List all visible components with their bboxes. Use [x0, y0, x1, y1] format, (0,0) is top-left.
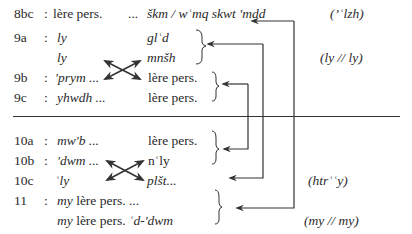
chiasm-arrow-10-a: [107, 161, 143, 180]
connector-8bc-11: [237, 21, 294, 208]
row-9c-right: lère pers.: [148, 91, 197, 105]
brace-10ab: [212, 131, 219, 164]
verse-label-9b: 9b: [14, 71, 28, 85]
row-9a-left: ly: [57, 31, 67, 45]
row-10c-right: plšt...: [147, 174, 177, 188]
verse-label-9a: 9a: [14, 31, 27, 45]
verse-label-10c: 10c: [14, 174, 34, 188]
row-9a-right: glʿd: [147, 31, 169, 45]
row-11b-tail: ʿd-'dwm: [129, 213, 173, 228]
colon-10a: :: [44, 134, 48, 148]
chiasm-arrow-10-b: [107, 161, 143, 180]
colon-9b: :: [44, 71, 48, 85]
colon-9c: :: [44, 91, 48, 105]
annotation-8bc: (ʼʿlzh): [330, 7, 364, 21]
verse-label-10b: 10b: [14, 154, 34, 168]
row-8bc-left: lère pers.: [53, 7, 102, 21]
verse-label-8bc: 8bc: [14, 7, 34, 21]
verse-label-10a: 10a: [14, 134, 34, 148]
row-10a-right: lère pers.: [148, 134, 197, 148]
row-9a2-right: mnšh: [147, 51, 176, 65]
connector-9a-10c: [230, 44, 263, 178]
row-9a2-left: ly: [57, 51, 67, 65]
row-9b-left: 'prym ...: [55, 71, 99, 85]
colon-11: :: [44, 194, 48, 208]
row-10b-right: nʿly: [148, 154, 170, 168]
chiasm-arrow-9-a: [105, 61, 140, 79]
colon-9a: :: [44, 31, 48, 45]
row-10a-left: mw'b ...: [57, 134, 99, 148]
row-11-rest: lère pers. ...: [73, 193, 139, 208]
colon-8bc: :: [44, 7, 48, 21]
connector-9bc-10ab: [224, 84, 248, 149]
annotation-9a: (ly // ly): [320, 51, 363, 65]
row-9c-left: yhwdh ...: [57, 91, 106, 105]
row-10b-left: 'dwm ...: [57, 154, 99, 168]
colon-10b: :: [44, 154, 48, 168]
row-10c-left: ʿly: [55, 174, 69, 188]
verse-label-9c: 9c: [14, 91, 27, 105]
row-11b-left: my lère pers. ʿd-'dwm: [57, 214, 173, 228]
row-11b-my: my: [57, 213, 73, 228]
row-9b-right: lère pers.: [148, 71, 197, 85]
brace-11: [215, 190, 222, 224]
row-11-my: my: [57, 193, 73, 208]
chiasm-arrow-9-b: [105, 61, 140, 79]
verse-label-11: 11: [14, 194, 27, 208]
annotation-11: (my // my): [304, 214, 359, 228]
row-11-left: my lère pers. ...: [57, 194, 139, 208]
row-8bc-right: škm / wʿmq skwt 'mdd: [147, 7, 265, 21]
annotation-10c: (htrʿʿy): [308, 174, 348, 188]
row-11b-rest: lère pers.: [73, 213, 129, 228]
row-8bc-ellipsis: ...: [128, 7, 138, 21]
brace-9bc: [212, 72, 219, 101]
brace-9a: [196, 30, 206, 64]
